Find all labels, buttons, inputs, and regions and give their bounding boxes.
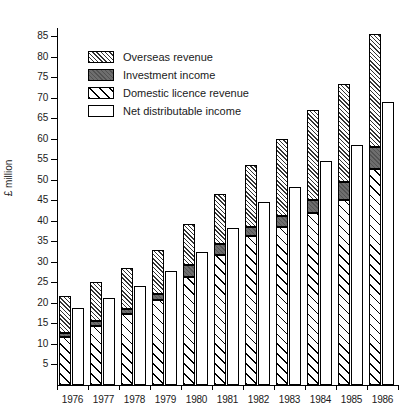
bar-segment-overseas-revenue	[59, 296, 71, 333]
y-tick-label: 10	[37, 339, 48, 349]
bar-net-distributable-income	[165, 271, 177, 385]
y-tick	[51, 221, 57, 222]
bar-net-distributable-income	[258, 202, 270, 385]
bar-segment-investment-income	[59, 333, 71, 337]
x-tick	[57, 385, 58, 390]
x-tick	[274, 385, 275, 390]
bar-segment-domestic-licence-revenue	[121, 314, 133, 385]
bar-segment-investment-income	[90, 321, 102, 326]
bar-segment-domestic-licence-revenue	[245, 236, 257, 385]
x-tick-label: 1979	[155, 394, 176, 405]
bar-segment-domestic-licence-revenue	[183, 277, 195, 385]
bar-segment-overseas-revenue	[183, 224, 195, 265]
x-tick-label: 1976	[62, 394, 83, 405]
y-axis-title: £ million	[3, 160, 14, 197]
y-axis-line	[57, 28, 58, 385]
y-tick	[51, 118, 57, 119]
chart-legend: Overseas revenueInvestment incomeDomesti…	[88, 48, 288, 120]
bar-segment-domestic-licence-revenue	[214, 255, 226, 385]
bar-segment-domestic-licence-revenue	[307, 213, 319, 385]
x-tick	[181, 385, 182, 390]
bar-segment-overseas-revenue	[276, 139, 288, 216]
y-tick	[51, 200, 57, 201]
y-tick-label: 85	[37, 31, 48, 41]
x-tick	[243, 385, 244, 390]
legend-label: Overseas revenue	[123, 51, 213, 63]
bar-segment-domestic-licence-revenue	[276, 227, 288, 385]
bar-segment-investment-income	[152, 294, 164, 301]
bar-segment-overseas-revenue	[245, 165, 257, 227]
y-tick	[51, 139, 57, 140]
x-tick-label: 1983	[279, 394, 300, 405]
y-tick	[51, 159, 57, 160]
y-tick	[51, 57, 57, 58]
x-tick	[150, 385, 151, 390]
bar-segment-domestic-licence-revenue	[152, 300, 164, 385]
bar-segment-overseas-revenue	[214, 194, 226, 244]
y-tick-label: 5	[43, 359, 48, 369]
y-tick-label: 55	[37, 154, 48, 164]
bar-net-distributable-income	[227, 228, 239, 385]
legend-item: Net distributable income	[88, 102, 288, 119]
y-tick	[51, 344, 57, 345]
y-tick-label: 60	[37, 134, 48, 144]
y-tick	[51, 98, 57, 99]
bar-net-distributable-income	[289, 187, 301, 385]
bar-net-distributable-income	[196, 252, 208, 385]
x-tick-label: 1977	[93, 394, 114, 405]
y-tick-label: 65	[37, 113, 48, 123]
bar-net-distributable-income	[72, 308, 84, 385]
legend-label: Investment income	[123, 69, 215, 81]
bar-segment-investment-income	[183, 265, 195, 277]
bar-segment-overseas-revenue	[369, 34, 381, 147]
bar-segment-investment-income	[214, 244, 226, 255]
x-tick	[398, 385, 399, 390]
y-tick-label: 25	[37, 277, 48, 287]
x-tick	[305, 385, 306, 390]
bar-segment-investment-income	[121, 309, 133, 314]
chart-figure: 510152025303540455055606570758085 197619…	[0, 0, 411, 415]
bar-net-distributable-income	[134, 286, 146, 385]
x-tick	[119, 385, 120, 390]
legend-item: Domestic licence revenue	[88, 84, 288, 101]
bar-segment-domestic-licence-revenue	[369, 169, 381, 385]
x-tick-label: 1985	[341, 394, 362, 405]
bar-net-distributable-income	[103, 298, 115, 385]
y-tick	[51, 36, 57, 37]
y-tick	[51, 282, 57, 283]
x-tick	[367, 385, 368, 390]
y-tick	[51, 364, 57, 365]
x-axis-line	[57, 385, 398, 386]
y-tick	[51, 323, 57, 324]
bar-segment-domestic-licence-revenue	[338, 200, 350, 385]
bar-segment-domestic-licence-revenue	[90, 326, 102, 385]
bar-segment-overseas-revenue	[90, 282, 102, 321]
bar-segment-investment-income	[369, 147, 381, 169]
x-tick-label: 1986	[372, 394, 393, 405]
bar-net-distributable-income	[320, 161, 332, 385]
bar-segment-overseas-revenue	[152, 250, 164, 294]
y-tick-label: 80	[37, 52, 48, 62]
y-tick	[51, 180, 57, 181]
y-tick	[51, 77, 57, 78]
y-tick-label: 15	[37, 318, 48, 328]
bar-segment-investment-income	[338, 182, 350, 199]
bar-segment-investment-income	[276, 216, 288, 227]
y-tick-label: 70	[37, 93, 48, 103]
y-tick-label: 75	[37, 72, 48, 82]
x-tick-label: 1982	[248, 394, 269, 405]
y-tick	[51, 262, 57, 263]
y-tick-label: 20	[37, 298, 48, 308]
legend-item: Investment income	[88, 66, 288, 83]
x-tick-label: 1980	[186, 394, 207, 405]
y-tick-label: 30	[37, 257, 48, 267]
x-tick	[212, 385, 213, 390]
legend-swatch-icon	[88, 69, 114, 81]
legend-item: Overseas revenue	[88, 48, 288, 65]
y-tick	[51, 241, 57, 242]
x-tick	[88, 385, 89, 390]
legend-swatch-icon	[88, 51, 114, 63]
bar-net-distributable-income	[382, 102, 394, 385]
y-tick-label: 50	[37, 175, 48, 185]
bar-net-distributable-income	[351, 145, 363, 385]
